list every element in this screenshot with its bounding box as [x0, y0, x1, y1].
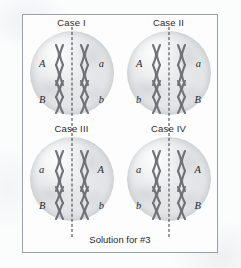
- allele-upper-right: A: [195, 165, 201, 176]
- tetrad-lower-left: [56, 187, 63, 219]
- allele-upper-left: A: [136, 59, 142, 70]
- allele-lower-right: b: [99, 95, 104, 106]
- case-panel-4: Case IV: [120, 121, 217, 227]
- allele-upper-right: a: [99, 59, 104, 70]
- allele-lower-left: b: [136, 95, 141, 106]
- allele-lower-left: B: [39, 95, 45, 106]
- tetrad-lower-right: [178, 81, 185, 113]
- allele-lower-right: b: [99, 201, 104, 212]
- case-panel-2: Case II: [120, 15, 217, 121]
- allele-upper-left: a: [136, 165, 141, 176]
- tetrad-upper-left: [153, 151, 160, 191]
- tetrad-upper-right: [81, 151, 88, 191]
- tetrad-upper-right: [178, 151, 185, 191]
- allele-upper-left: a: [39, 165, 44, 176]
- tetrad-upper-left: [56, 45, 63, 85]
- figure-root: Case I: [0, 0, 241, 268]
- tetrad-lower-left: [153, 81, 160, 113]
- tetrad-upper-right: [81, 45, 88, 85]
- tetrad-lower-right: [81, 187, 88, 219]
- metaphase-plate-line: [71, 27, 72, 131]
- allele-lower-left: b: [136, 201, 141, 212]
- cases-grid: Case I: [23, 15, 217, 227]
- tetrad-lower-left: [153, 187, 160, 219]
- allele-upper-right: a: [196, 59, 201, 70]
- allele-lower-left: B: [39, 201, 45, 212]
- tetrad-lower-right: [178, 187, 185, 219]
- figure-frame: Case I: [22, 14, 218, 253]
- metaphase-plate-line: [168, 133, 169, 237]
- tetrad-upper-left: [153, 45, 160, 85]
- metaphase-plate-line: [71, 133, 72, 237]
- case-panel-3: Case III: [23, 121, 120, 227]
- allele-upper-right: A: [98, 165, 104, 176]
- tetrad-lower-left: [56, 81, 63, 113]
- allele-upper-left: A: [39, 59, 45, 70]
- case-panel-1: Case I: [23, 15, 120, 121]
- tetrad-upper-right: [178, 45, 185, 85]
- tetrad-upper-left: [56, 151, 63, 191]
- allele-lower-right: B: [195, 201, 201, 212]
- tetrad-lower-right: [81, 81, 88, 113]
- figure-caption: Solution for #3: [23, 234, 217, 245]
- metaphase-plate-line: [168, 27, 169, 131]
- allele-lower-right: B: [195, 95, 201, 106]
